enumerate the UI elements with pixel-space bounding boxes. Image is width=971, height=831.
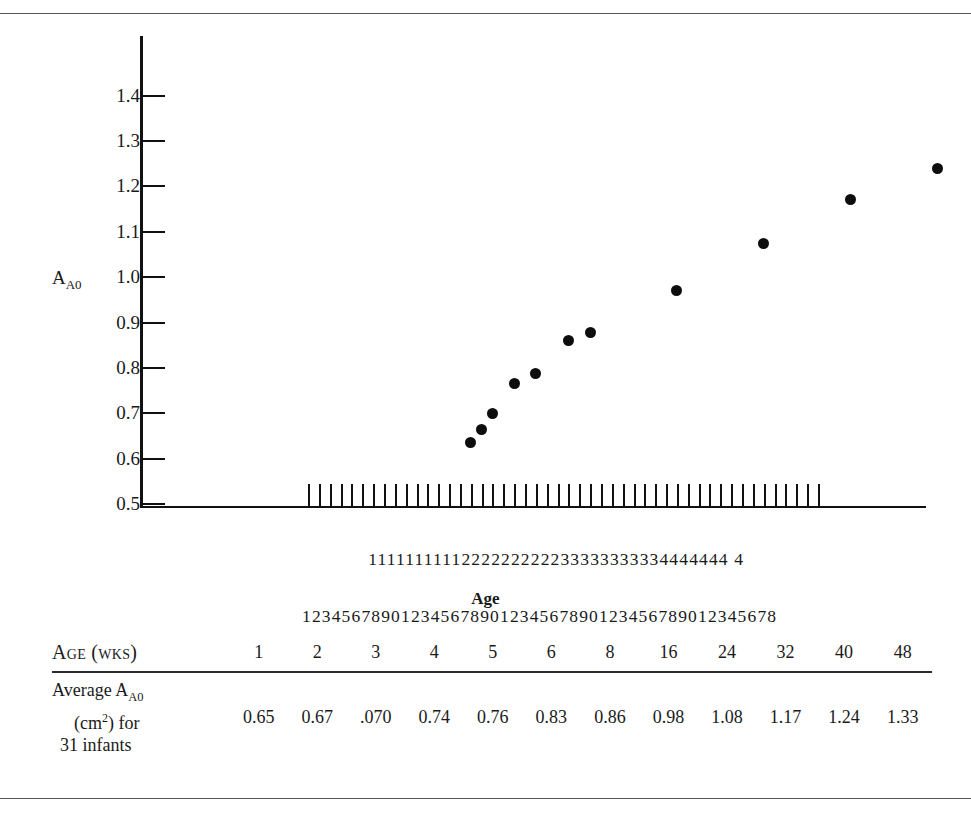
y-tick-mark	[143, 458, 165, 460]
x-tick-mark	[807, 484, 809, 506]
x-tick-mark	[775, 484, 777, 506]
x-tick-mark	[514, 484, 516, 506]
y-tick-mark	[143, 276, 165, 278]
table-col-header: 32	[756, 636, 815, 668]
x-axis-title: Age	[0, 589, 971, 609]
x-axis-tick-labels-tens: 1111111111222222222233333333334444444 4	[302, 550, 837, 569]
table-col-header: 2	[288, 636, 347, 668]
x-tick-mark	[655, 484, 657, 506]
x-tick-mark	[818, 484, 820, 506]
table-col-header: 3	[346, 636, 405, 668]
x-tick-mark	[482, 484, 484, 506]
table-cell: 0.65	[229, 679, 288, 757]
data-table-wrapper: Age (wks) 12345681624324048 Average AA0(…	[52, 636, 932, 756]
x-tick-mark	[720, 484, 722, 506]
y-tick-label: 1.4	[80, 86, 140, 105]
x-tick-mark	[492, 484, 494, 506]
data-point	[487, 408, 498, 419]
table-rule-row	[52, 668, 932, 679]
table-cell: 1.33	[873, 679, 932, 757]
x-tick-mark	[373, 484, 375, 506]
x-axis-tick-labels-ones: 1234567890123456789012345678901234567890…	[302, 607, 837, 626]
x-tick-mark	[568, 484, 570, 506]
x-tick-mark	[612, 484, 614, 506]
y-tick-label: 0.5	[80, 494, 140, 513]
data-point	[585, 327, 596, 338]
data-point	[509, 378, 520, 389]
x-tick-mark	[525, 484, 527, 506]
table-col-header: 4	[405, 636, 464, 668]
y-tick-mark	[143, 412, 165, 414]
x-tick-mark	[644, 484, 646, 506]
table-header-row: Age (wks) 12345681624324048	[52, 636, 932, 668]
y-tick-mark	[143, 95, 165, 97]
data-point	[845, 194, 856, 205]
y-tick-mark	[143, 185, 165, 187]
table-cell: 1.24	[815, 679, 874, 757]
x-tick-mark	[753, 484, 755, 506]
table-row-label-line1: Average AA0	[52, 680, 143, 700]
x-tick-mark	[579, 484, 581, 506]
table-cell: 0.67	[288, 679, 347, 757]
x-tick-mark	[395, 484, 397, 506]
x-tick-mark	[460, 484, 462, 506]
table-col-header: 16	[639, 636, 698, 668]
table-cell: 0.74	[405, 679, 464, 757]
x-tick-mark	[601, 484, 603, 506]
x-tick-mark	[438, 484, 440, 506]
x-tick-mark	[709, 484, 711, 506]
y-tick-label: 1.1	[80, 222, 140, 241]
x-tick-mark	[558, 484, 560, 506]
x-tick-mark	[666, 484, 668, 506]
table-col-header: 6	[522, 636, 581, 668]
x-tick-mark	[417, 484, 419, 506]
x-tick-mark	[688, 484, 690, 506]
data-point	[476, 424, 487, 435]
x-tick-mark	[742, 484, 744, 506]
bottom-divider	[0, 798, 971, 799]
data-point	[671, 285, 682, 296]
x-tick-mark	[547, 484, 549, 506]
y-tick-label: 0.8	[80, 358, 140, 377]
y-tick-label: 0.9	[80, 313, 140, 332]
table-cell: 0.83	[522, 679, 581, 757]
table-rule-cell	[52, 668, 932, 679]
x-tick-mark	[731, 484, 733, 506]
data-point	[563, 335, 574, 346]
data-table: Age (wks) 12345681624324048 Average AA0(…	[52, 636, 932, 756]
x-tick-mark	[785, 484, 787, 506]
x-tick-mark	[449, 484, 451, 506]
table-cell: 0.98	[639, 679, 698, 757]
x-tick-mark	[503, 484, 505, 506]
y-tick-label: 1.2	[80, 176, 140, 195]
table-header-label: Age (wks)	[52, 636, 229, 668]
y-tick-mark	[143, 322, 165, 324]
table-row-label-line3: 31 infants	[52, 734, 225, 756]
table-value-row: Average AA0(cm2) for31 infants 0.650.67.…	[52, 679, 932, 757]
x-tick-mark	[308, 484, 310, 506]
y-tick-mark	[143, 140, 165, 142]
table-cell: 0.76	[464, 679, 523, 757]
table-cell: 1.17	[756, 679, 815, 757]
y-tick-mark	[143, 367, 165, 369]
y-tick-label: 0.6	[80, 449, 140, 468]
x-tick-mark	[796, 484, 798, 506]
table-row-label-line2: (cm2) for	[52, 707, 225, 734]
table-col-header: 8	[581, 636, 640, 668]
y-tick-label: 0.7	[80, 403, 140, 422]
table-row-label: Average AA0(cm2) for31 infants	[52, 679, 229, 757]
x-tick-mark	[319, 484, 321, 506]
y-tick-mark	[143, 503, 165, 505]
x-tick-mark	[362, 484, 364, 506]
x-tick-mark	[590, 484, 592, 506]
table-col-header: 24	[698, 636, 757, 668]
x-tick-mark	[406, 484, 408, 506]
y-axis-line	[140, 36, 143, 508]
x-tick-mark	[699, 484, 701, 506]
scatter-plot: AA0 1.41.31.21.11.00.90.80.70.60.5 11111…	[0, 0, 971, 620]
x-tick-mark	[471, 484, 473, 506]
x-axis-line	[140, 506, 926, 508]
data-point	[530, 368, 541, 379]
table-col-header: 48	[873, 636, 932, 668]
x-tick-mark	[384, 484, 386, 506]
